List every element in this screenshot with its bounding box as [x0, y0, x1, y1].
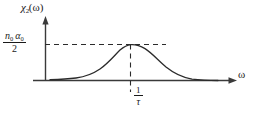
- peak-position-denominator: τ: [134, 96, 143, 107]
- amplitude-denominator: 2: [3, 43, 26, 54]
- lineshape-curve: [50, 45, 218, 81]
- y-axis: [42, 16, 48, 81]
- peak-position-numerator: 1: [134, 85, 143, 96]
- figure-absorption-lineshape: χ2(ω) ω n0 α0 2 1 τ: [0, 0, 259, 114]
- n-subscript: 0: [10, 35, 13, 42]
- alpha-subscript: 0: [21, 35, 24, 42]
- amplitude-label: n0 α0 2: [3, 30, 26, 54]
- peak-position-label: 1 τ: [134, 85, 143, 107]
- plot-canvas: [0, 0, 259, 114]
- x-axis-label: ω: [238, 69, 245, 80]
- y-axis-label-argument: (ω): [29, 1, 44, 13]
- y-axis-label: χ2(ω): [21, 2, 43, 15]
- amplitude-numerator: n0 α0: [3, 30, 26, 43]
